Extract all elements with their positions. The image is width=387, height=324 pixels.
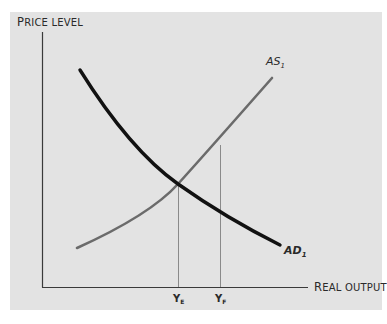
ad-as-diagram: PRICE LEVEL REAL OUTPUT AS1 AD1 YE YF	[0, 0, 387, 324]
as-curve	[77, 78, 272, 248]
yf-label: YF	[214, 293, 226, 305]
y-axis-label: PRICE LEVEL	[17, 15, 83, 29]
as-curve-label: AS1	[265, 55, 285, 70]
x-axis-label: REAL OUTPUT	[314, 280, 387, 294]
ad-curve	[80, 70, 280, 245]
ye-label: YE	[172, 293, 184, 305]
ad-curve-label: AD1	[283, 244, 307, 259]
